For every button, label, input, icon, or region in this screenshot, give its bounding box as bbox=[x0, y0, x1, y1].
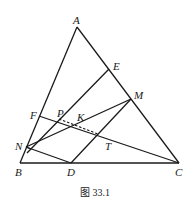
label-E: E bbox=[112, 60, 120, 72]
label-F: F bbox=[29, 109, 37, 121]
segment-AB bbox=[20, 27, 77, 163]
segment-NM bbox=[26, 99, 131, 147]
label-K: K bbox=[76, 111, 85, 123]
label-M: M bbox=[133, 89, 144, 101]
label-P: P bbox=[56, 107, 64, 119]
figure-caption: 图 33.1 bbox=[80, 187, 110, 198]
segment-AC bbox=[77, 27, 179, 163]
label-N: N bbox=[14, 140, 23, 152]
label-B: B bbox=[15, 166, 22, 178]
label-T: T bbox=[105, 140, 112, 152]
segment-MD bbox=[71, 99, 131, 163]
geometry-figure: A E M F P K T N B D C 图 33.1 bbox=[0, 0, 194, 210]
segment-N-to-BE bbox=[26, 147, 31, 149]
label-C: C bbox=[175, 166, 183, 178]
label-D: D bbox=[66, 166, 75, 178]
segment-ND bbox=[26, 147, 71, 163]
label-A: A bbox=[72, 14, 80, 26]
